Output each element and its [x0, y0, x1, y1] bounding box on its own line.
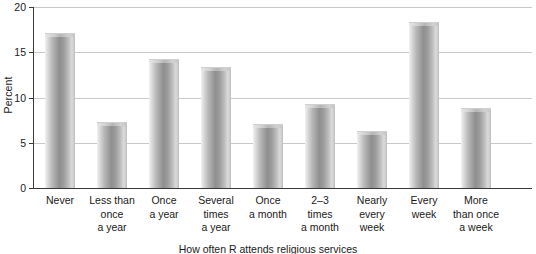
gridline [34, 52, 532, 53]
plot-area [33, 7, 532, 189]
y-axis-tick [29, 143, 33, 144]
y-axis-tick-label: 15 [2, 47, 26, 58]
bar [45, 33, 75, 188]
y-axis-tick-label: 5 [2, 138, 26, 149]
bar [253, 124, 283, 188]
bar [357, 131, 387, 188]
y-axis-tick [29, 52, 33, 53]
gridline [34, 7, 532, 8]
x-axis-category-label: More than once a week [441, 194, 511, 235]
bar [409, 22, 439, 188]
y-axis-tick [29, 188, 33, 189]
y-axis-tick [29, 98, 33, 99]
x-axis-title: How often R attends religious services [0, 243, 536, 254]
bar [97, 122, 127, 188]
gridline [34, 98, 532, 99]
y-axis-tick-label: 20 [2, 2, 26, 13]
bar [461, 108, 491, 188]
y-axis-tick-label: 0 [2, 183, 26, 194]
x-axis-line [33, 188, 532, 189]
bar [201, 67, 231, 188]
bar [149, 59, 179, 189]
y-axis-tick-label: 10 [2, 93, 26, 104]
bar-chart: Percent 20151050 NeverLess than once a y… [0, 0, 536, 254]
y-axis-tick [29, 7, 33, 8]
bar [305, 104, 335, 188]
